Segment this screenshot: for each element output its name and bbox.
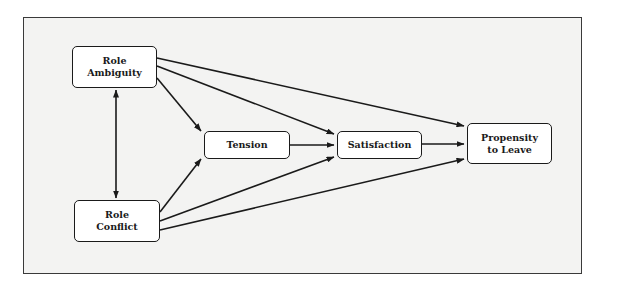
node-tension: Tension	[204, 131, 290, 159]
node-label: to Leave	[487, 144, 531, 156]
node-label: Propensity	[481, 132, 538, 144]
edge-conflict-tension	[160, 159, 201, 212]
edge-ambiguity-propensity	[157, 58, 464, 126]
node-propensity-to-leave: Propensity to Leave	[467, 123, 552, 164]
node-label: Tension	[226, 139, 267, 151]
node-label: Conflict	[96, 221, 138, 233]
edge-conflict-propensity	[160, 159, 464, 230]
node-label: Role	[105, 209, 129, 221]
node-satisfaction: Satisfaction	[337, 131, 422, 159]
node-label: Role	[103, 55, 127, 67]
node-label: Ambiguity	[87, 67, 142, 79]
edge-ambiguity-satisfaction	[157, 66, 334, 134]
node-role-ambiguity: Role Ambiguity	[72, 46, 157, 88]
edge-ambiguity-tension	[157, 78, 201, 131]
edge-conflict-satisfaction	[160, 157, 334, 221]
node-role-conflict: Role Conflict	[74, 200, 160, 242]
node-label: Satisfaction	[348, 139, 412, 151]
